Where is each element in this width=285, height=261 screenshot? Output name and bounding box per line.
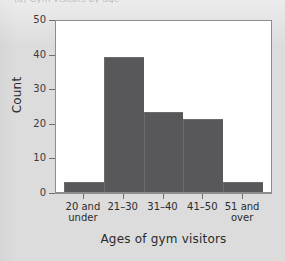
plot-area: [55, 20, 272, 193]
x-axis-tick-label: 51 and over: [218, 201, 266, 223]
bar: [183, 119, 223, 192]
y-axis-tick-label: 10: [26, 153, 46, 163]
y-axis-tick-label: 50: [26, 15, 46, 25]
y-axis-tick-label: 40: [26, 50, 46, 60]
x-axis-tick: [202, 194, 203, 199]
y-axis-tick: [49, 158, 55, 159]
bar: [223, 182, 263, 192]
histogram-chart: 01020304050 Count 20 and under21–3031–40…: [0, 0, 285, 261]
y-axis-tick: [49, 20, 55, 21]
y-axis-tick: [49, 124, 55, 125]
y-axis-tick: [49, 89, 55, 90]
y-axis-tick-label: 30: [26, 84, 46, 94]
x-axis-title: Ages of gym visitors: [55, 232, 272, 246]
bar: [104, 57, 144, 192]
bars-layer: [56, 21, 271, 192]
y-axis-tick-label: 0: [26, 188, 46, 198]
x-axis-tick: [83, 194, 84, 199]
y-axis-title: Count: [10, 65, 24, 125]
x-axis-tick: [242, 194, 243, 199]
x-axis-line: [55, 193, 272, 194]
x-axis-tick: [163, 194, 164, 199]
bar: [64, 182, 104, 192]
bar: [144, 112, 184, 192]
y-axis-line: [55, 20, 56, 193]
y-axis-tick-label: 20: [26, 119, 46, 129]
y-axis-tick: [49, 55, 55, 56]
x-axis-tick: [123, 194, 124, 199]
